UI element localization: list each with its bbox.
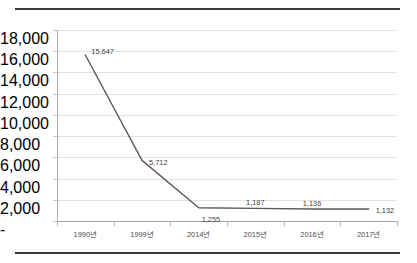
chart-figure: -2,0004,0006,0008,00010,00012,00014,0001… xyxy=(0,0,417,263)
data-value-label: 1,132 xyxy=(376,205,395,214)
series-line xyxy=(0,0,417,263)
data-value-label: 1,187 xyxy=(246,198,265,207)
data-value-label: 1,255 xyxy=(202,214,221,223)
data-value-label: 15,647 xyxy=(91,46,114,55)
data-value-label: 5,712 xyxy=(149,158,168,167)
data-value-label: 1,136 xyxy=(303,198,322,207)
line-chart-plot-area: -2,0004,0006,0008,00010,00012,00014,0001… xyxy=(0,0,417,263)
